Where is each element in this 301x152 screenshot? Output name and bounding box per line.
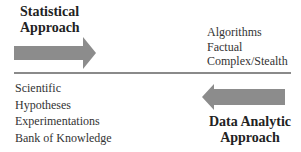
right-arrow-icon	[14, 37, 96, 69]
data-analytic-title-line-1: Data Analytic	[208, 114, 292, 130]
statistical-title-line-1: Statistical	[20, 4, 80, 20]
statistical-characteristics-list: Algorithms Factual Complex/Stealth	[207, 25, 288, 69]
section-divider	[14, 72, 291, 74]
data-analytic-characteristics-list: Scientific Hypotheses Experimentations B…	[15, 80, 112, 146]
list-item: Complex/Stealth	[207, 54, 288, 69]
left-arrow-icon	[202, 84, 285, 110]
list-item: Bank of Knowledge	[15, 130, 112, 147]
list-item: Factual	[207, 40, 288, 55]
statistical-approach-title: Statistical Approach	[20, 4, 80, 36]
list-item: Experimentations	[15, 113, 112, 130]
list-item: Scientific	[15, 80, 112, 97]
data-analytic-title-line-2: Approach	[208, 130, 292, 146]
statistical-title-line-2: Approach	[20, 20, 80, 36]
data-analytic-approach-title: Data Analytic Approach	[208, 114, 292, 146]
list-item: Algorithms	[207, 25, 288, 40]
list-item: Hypotheses	[15, 97, 112, 114]
